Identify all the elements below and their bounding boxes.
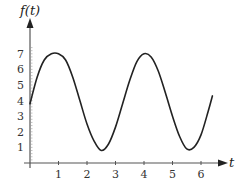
y-tick-label: 5 bbox=[17, 79, 24, 92]
function-chart: 123456 1234567 f(t) t bbox=[0, 0, 237, 188]
x-tick-label: 2 bbox=[84, 168, 91, 181]
x-tick-label: 4 bbox=[141, 168, 148, 181]
x-tick-label: 1 bbox=[55, 168, 62, 181]
y-tick-label: 6 bbox=[17, 63, 24, 76]
y-ticks: 1234567 bbox=[17, 48, 24, 155]
y-tick-label: 2 bbox=[17, 126, 24, 139]
x-ticks: 123456 bbox=[55, 161, 205, 181]
y-tick-label: 1 bbox=[17, 141, 24, 154]
x-axis-arrow-icon bbox=[218, 160, 228, 167]
x-tick-label: 3 bbox=[112, 168, 119, 181]
y-tick-label: 3 bbox=[17, 110, 24, 123]
x-axis bbox=[24, 160, 228, 167]
y-axis-arrow-icon bbox=[27, 18, 34, 28]
function-curve bbox=[30, 53, 212, 151]
y-tick-label: 7 bbox=[17, 48, 24, 61]
y-tick-label: 4 bbox=[17, 95, 24, 108]
x-tick-label: 6 bbox=[198, 168, 205, 181]
x-axis-label: t bbox=[229, 155, 235, 170]
y-axis-label: f(t) bbox=[19, 3, 40, 18]
x-tick-label: 5 bbox=[169, 168, 176, 181]
